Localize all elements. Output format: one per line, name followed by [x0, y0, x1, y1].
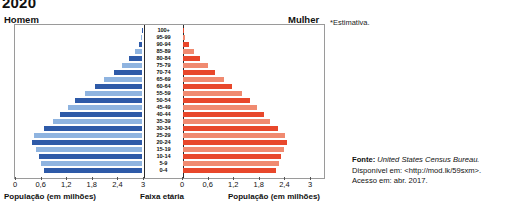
x-tick-mark: [259, 177, 260, 180]
age-group-label: 75-79: [144, 62, 183, 69]
female-bar: [183, 119, 270, 125]
female-bar: [183, 49, 194, 55]
x-tick-label-right: 1,8: [254, 180, 264, 189]
female-bar: [183, 28, 184, 34]
male-bar: [129, 56, 142, 62]
male-bar: [53, 119, 142, 125]
female-bar: [183, 42, 189, 48]
source-label: Fonte:: [352, 155, 375, 164]
female-bar: [183, 105, 257, 111]
male-bar: [32, 140, 142, 146]
male-bar: [44, 126, 142, 132]
x-tick-mark: [310, 177, 311, 180]
age-group-label: 50-54: [144, 97, 183, 104]
pyramid-row: 60-64: [15, 83, 324, 90]
age-group-label: 90-94: [144, 41, 183, 48]
age-group-label: 65-69: [144, 76, 183, 83]
pyramid-row: 35-39: [15, 118, 324, 125]
pyramid-row: 50-54: [15, 97, 324, 104]
age-group-label: 80-84: [144, 55, 183, 62]
female-bar: [183, 140, 287, 146]
male-bar: [85, 91, 142, 97]
pyramid-row: 30-34: [15, 125, 324, 132]
female-bar: [183, 84, 232, 90]
pyramid-row: 10-14: [15, 153, 324, 160]
male-bar: [141, 35, 142, 41]
x-tick-mark: [284, 177, 285, 180]
age-group-label: 70-74: [144, 69, 183, 76]
age-group-label: 85-89: [144, 48, 183, 55]
male-bar: [75, 98, 142, 104]
source-accessed: Acesso em: abr. 2017.: [352, 176, 428, 185]
pyramid-row: 70-74: [15, 69, 324, 76]
male-bar: [60, 112, 142, 118]
female-bar: [183, 133, 285, 139]
male-bar: [135, 49, 142, 55]
x-tick-label-left: 3: [141, 180, 145, 189]
y-axis-label: Faixa etária: [140, 192, 184, 201]
female-bar: [183, 161, 279, 167]
pyramid-row: 15-19: [15, 146, 324, 153]
female-bar: [183, 168, 276, 174]
x-tick-label-left: 1,2: [61, 180, 71, 189]
male-bar: [139, 42, 142, 48]
female-bar: [183, 56, 200, 62]
x-tick-label-left: 0,6: [35, 180, 45, 189]
male-bar: [104, 77, 142, 83]
female-bar: [183, 91, 242, 97]
pyramid-row: 65-69: [15, 76, 324, 83]
age-group-label: 15-19: [144, 146, 183, 153]
age-group-label: 20-24: [144, 139, 183, 146]
x-axis-ticks: 32,41,81,20,6000,61,21,82,43: [14, 180, 325, 192]
pyramid-row: 45-49: [15, 104, 324, 111]
age-group-label: 45-49: [144, 104, 183, 111]
male-bar: [39, 154, 142, 160]
x-axis-label-right: População (em milhões): [228, 192, 320, 201]
x-tick-mark: [41, 177, 42, 180]
source-url: Disponível em: <http://mod.lk/59sxm>.: [352, 166, 481, 175]
age-group-label: 40-44: [144, 111, 183, 118]
x-axis-label-left: População (em milhões): [4, 192, 96, 201]
x-tick-label-right: 0,6: [202, 180, 212, 189]
female-bar: [183, 147, 284, 153]
pyramid-row: 85-89: [15, 48, 324, 55]
pyramid-row: 75-79: [15, 62, 324, 69]
pyramid-row: 95-99: [15, 34, 324, 41]
female-bar: [183, 126, 278, 132]
pyramid-row: 0-4: [15, 167, 324, 174]
x-tick-mark: [233, 177, 234, 180]
female-bar: [183, 112, 264, 118]
age-group-label: 10-14: [144, 153, 183, 160]
female-bar: [183, 154, 281, 160]
x-tick-mark: [15, 177, 16, 180]
age-group-label: 95-99: [144, 34, 183, 41]
x-tick-label-left: 2,4: [112, 180, 122, 189]
male-bar: [41, 161, 142, 167]
pyramid-row: 100+: [15, 27, 324, 34]
pyramid-rows: 100+95-9990-9485-8980-8475-7970-7465-696…: [15, 27, 324, 176]
x-tick-mark: [143, 177, 144, 180]
x-tick-label-right: 3: [308, 180, 312, 189]
age-group-label: 100+: [144, 27, 183, 34]
x-tick-mark: [92, 177, 93, 180]
age-group-label: 60-64: [144, 83, 183, 90]
age-group-label: 55-59: [144, 90, 183, 97]
pyramid-row: 25-29: [15, 132, 324, 139]
male-bar: [95, 84, 142, 90]
x-tick-mark: [117, 177, 118, 180]
age-group-label: 5-9: [144, 160, 183, 167]
source-citation: Fonte: United States Census Bureau. Disp…: [352, 155, 504, 187]
source-publisher: United States Census Bureau.: [377, 155, 479, 164]
female-bar: [183, 98, 250, 104]
female-bar: [183, 77, 224, 83]
estimate-note: *Estimativa.: [330, 18, 370, 27]
age-group-label: 0-4: [144, 167, 183, 174]
pyramid-row: 80-84: [15, 55, 324, 62]
male-bar: [44, 168, 142, 174]
male-bar: [34, 133, 142, 139]
x-tick-label-right: 0: [180, 180, 184, 189]
female-bar: [183, 63, 208, 69]
pyramid-row: 20-24: [15, 139, 324, 146]
age-group-label: 30-34: [144, 125, 183, 132]
x-tick-label-right: 1,2: [228, 180, 238, 189]
